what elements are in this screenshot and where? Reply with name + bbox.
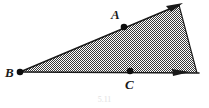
vertex-label-c: C	[125, 78, 134, 91]
vertex-label-b: B	[5, 66, 14, 79]
figure-caption: 5.11	[0, 95, 209, 104]
ray-BC	[20, 72, 199, 73]
vertex-dot-C	[127, 68, 134, 75]
figure-canvas	[0, 0, 209, 108]
vertex-label-a: A	[111, 8, 120, 21]
shaded-triangle-region	[20, 5, 197, 73]
geometry-figure: A B C 5.11	[0, 0, 209, 108]
vertex-dot-A	[121, 24, 128, 31]
vertex-dot-B	[17, 69, 24, 76]
